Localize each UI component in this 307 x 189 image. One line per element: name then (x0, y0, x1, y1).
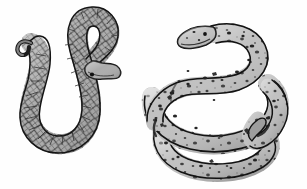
snake-left-eye (90, 72, 94, 76)
snake-right-eye (203, 32, 207, 36)
two-snakes-drawing (0, 0, 307, 189)
illustration-canvas: Two Snakes (0, 0, 307, 189)
